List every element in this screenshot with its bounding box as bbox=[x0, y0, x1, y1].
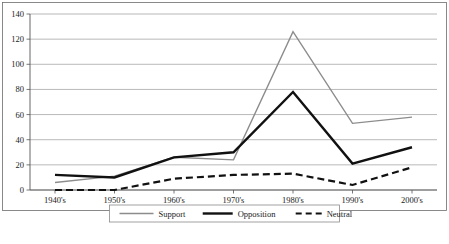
y-tick-label: 40 bbox=[16, 135, 25, 145]
legend-group[interactable]: SupportOppositionNeutral bbox=[110, 205, 353, 222]
x-category-label: 1970's bbox=[223, 195, 245, 205]
legend-label-neutral[interactable]: Neutral bbox=[327, 209, 353, 219]
x-category-label: 1960's bbox=[163, 195, 185, 205]
legend-label-opposition[interactable]: Opposition bbox=[238, 209, 277, 219]
line-chart: 020406080100120140 1940's1950's1960's197… bbox=[0, 0, 449, 244]
x-category-label: 2000's bbox=[401, 195, 423, 205]
y-tick-label: 140 bbox=[11, 9, 24, 19]
x-category-label: 1980's bbox=[282, 195, 304, 205]
legend-label-support[interactable]: Support bbox=[159, 209, 187, 219]
x-category-label: 1950's bbox=[104, 195, 126, 205]
y-tick-label: 100 bbox=[11, 59, 24, 69]
x-category-label: 1940's bbox=[44, 195, 66, 205]
gridlines-group bbox=[30, 14, 437, 190]
y-tick-label: 120 bbox=[11, 34, 24, 44]
y-tick-label: 60 bbox=[16, 110, 25, 120]
y-tick-label: 80 bbox=[16, 84, 25, 94]
series-line-neutral bbox=[55, 167, 412, 190]
series-group bbox=[55, 32, 412, 190]
y-tick-label: 20 bbox=[16, 160, 25, 170]
y-tick-label: 0 bbox=[20, 185, 24, 195]
chart-canvas: 020406080100120140 1940's1950's1960's197… bbox=[0, 0, 449, 244]
series-line-support bbox=[55, 32, 412, 183]
category-labels-group: 1940's1950's1960's1970's1980's1990's2000… bbox=[44, 195, 423, 205]
x-category-label: 1990's bbox=[342, 195, 364, 205]
y-axis-group: 020406080100120140 bbox=[11, 9, 30, 195]
